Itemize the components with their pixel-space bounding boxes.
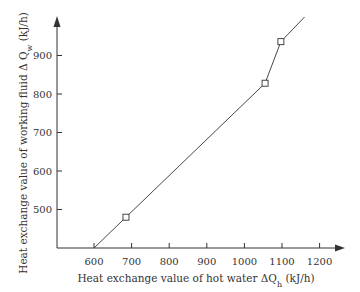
axes <box>54 16 346 252</box>
x-tick-label: 1100 <box>269 256 294 267</box>
data-series <box>94 17 305 248</box>
y-axis-label: Heat exchange value of working fluid Δ Q… <box>17 12 34 274</box>
y-tick-label: 600 <box>33 166 52 177</box>
square-marker <box>278 39 284 45</box>
y-axis-ticks: 500600700800900 <box>33 50 62 215</box>
y-tick-label: 500 <box>33 204 52 215</box>
x-axis-ticks: 600700800900100011001200 <box>84 243 332 267</box>
x-tick-label: 600 <box>84 256 103 267</box>
x-tick-label: 1000 <box>232 256 257 267</box>
series-line <box>94 17 305 248</box>
y-tick-label: 900 <box>33 50 52 61</box>
line-chart: 600700800900100011001200 500600700800900… <box>0 0 360 292</box>
y-tick-label: 800 <box>33 89 52 100</box>
y-tick-label: 700 <box>33 127 52 138</box>
x-tick-label: 1200 <box>307 256 332 267</box>
x-tick-label: 800 <box>160 256 179 267</box>
x-tick-label: 700 <box>122 256 141 267</box>
square-marker <box>262 80 268 86</box>
x-tick-label: 900 <box>197 256 216 267</box>
square-marker <box>123 214 129 220</box>
x-axis-label: Heat exchange value of hot water ΔQh (kJ… <box>77 272 314 289</box>
